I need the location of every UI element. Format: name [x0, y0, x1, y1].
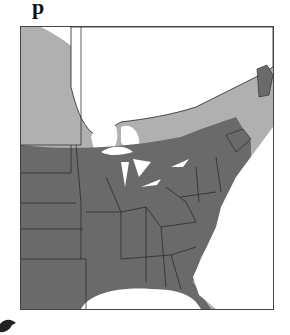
range-map-graphic [21, 27, 273, 309]
title-fragment: p [32, 0, 44, 20]
bird-icon [0, 316, 18, 335]
range-map [20, 26, 274, 310]
